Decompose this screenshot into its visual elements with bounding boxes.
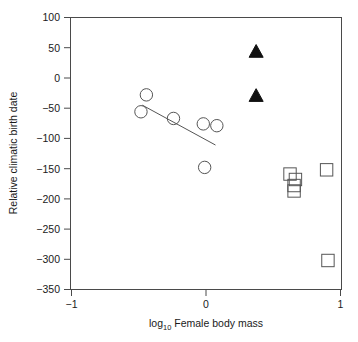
data-points-layer	[135, 45, 334, 267]
data-point-open-circles-3	[197, 118, 209, 130]
y-tick-label-neg150: −150	[36, 163, 60, 175]
series-filled-triangles	[249, 45, 263, 102]
x-axis-title: log10 Female body mass	[149, 317, 263, 332]
y-tick-label-neg100: −100	[36, 132, 60, 144]
scatter-plot-figure: Relative climatic birth date log10 Femal…	[0, 0, 358, 342]
y-tick-label-0: 0	[54, 72, 60, 84]
data-point-open-circles-1	[135, 106, 147, 118]
y-tick-label-neg250: −250	[36, 223, 60, 235]
y-tick-label-neg300: −300	[36, 253, 60, 265]
data-point-open-circles-5	[198, 161, 210, 173]
series-open-circles	[135, 89, 223, 174]
y-axis-title: Relative climatic birth date	[7, 92, 19, 215]
regression-line	[142, 105, 215, 145]
x-tick-label-1: 1	[338, 298, 344, 310]
x-tick-label-neg1: −1	[66, 298, 78, 310]
data-point-open-squares-3	[288, 185, 300, 197]
data-point-filled-triangles-0	[249, 45, 263, 58]
data-point-open-squares-5	[322, 254, 334, 266]
data-point-filled-triangles-1	[249, 89, 263, 102]
data-point-open-circles-2	[167, 112, 179, 124]
x-axis-tick-labels: −1 0 1	[66, 298, 344, 310]
data-point-open-circles-0	[140, 89, 152, 101]
data-point-open-squares-0	[284, 168, 296, 180]
plot-canvas: Relative climatic birth date log10 Femal…	[0, 0, 358, 342]
data-point-open-circles-4	[211, 119, 223, 131]
data-point-open-squares-4	[320, 164, 332, 176]
x-axis-title-subscript: 10	[163, 323, 171, 332]
plot-frame	[71, 18, 342, 290]
series-open-squares	[284, 164, 334, 267]
y-tick-label-neg200: −200	[36, 193, 60, 205]
y-tick-label-50: 50	[48, 42, 60, 54]
y-tick-label-100: 100	[42, 11, 60, 23]
y-tick-label-neg350: −350	[36, 283, 60, 295]
x-axis-ticks	[72, 290, 341, 297]
y-axis-ticks	[64, 18, 71, 290]
y-tick-label-neg50: −50	[42, 102, 60, 114]
y-axis-tick-labels: 100 50 0 −50 −100 −150 −200 −250 −300 −3…	[36, 11, 60, 295]
x-axis-title-rest: Female body mass	[171, 317, 263, 329]
x-tick-label-0: 0	[203, 298, 209, 310]
x-axis-title-base: log	[149, 317, 163, 329]
